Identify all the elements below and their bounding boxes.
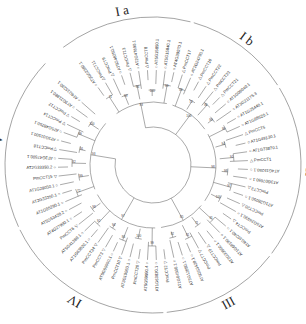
root-arc [115, 127, 191, 203]
leaf-branch [226, 135, 243, 141]
bootstrap-labels: 7199961009993837286991009994919897100989… [72, 84, 233, 245]
phylogenetic-tree-figure: ○ AT3G02380.1△ PmCCT11△ PmCCT9○ AT5G4825… [0, 0, 306, 324]
bootstrap-value: 100 [136, 234, 141, 238]
bootstrap-value: 91 [80, 147, 84, 151]
leaf-branch [194, 82, 199, 91]
leaf-branch [233, 176, 247, 178]
bootstrap-value: 86 [122, 235, 126, 239]
leaf-label: △ PmCCT1 [250, 157, 272, 163]
bootstrap-value: 97 [121, 214, 125, 218]
leaf-branch [178, 242, 182, 255]
bootstrap-value: 92 [97, 219, 101, 223]
leaf-labels: ○ AT3G02380.1△ PmCCT11△ PmCCT9○ AT5G4825… [26, 38, 279, 291]
bootstrap-value: 93 [140, 103, 144, 107]
leaf-branch [147, 242, 148, 260]
leaf-branch [106, 235, 113, 247]
bootstrap-value: 72 [77, 189, 81, 193]
leaf-label: AT3G10060.1 ○ [120, 258, 132, 288]
leaf-branch [139, 249, 141, 259]
leaf-branch [233, 152, 247, 154]
tree-svg: ○ AT3G02380.1△ PmCCT11△ PmCCT9○ AT5G4825… [0, 0, 306, 324]
leaf-branch [198, 86, 206, 98]
bootstrap-value: 100 [216, 195, 221, 199]
bootstrap-value: 81 [186, 233, 190, 237]
leaf-label: AT5G59990.4 ○ [143, 261, 150, 291]
leaf-branch [215, 217, 226, 226]
leaf-branch [178, 75, 182, 88]
bootstrap-value: 100 [90, 122, 95, 126]
leaf-branch [59, 150, 77, 153]
leaf-branch [227, 118, 236, 123]
leaf-branch [76, 109, 87, 117]
bootstrap-value: 94 [112, 223, 116, 227]
leaf-branch [187, 243, 191, 252]
clade-label-v: V [0, 133, 6, 145]
leaf-branch [113, 242, 117, 251]
leaf-branch [62, 190, 72, 193]
leaf-branch [79, 213, 93, 224]
leaf-branch [69, 203, 81, 210]
leaf-label: △ PmCCT5 [244, 124, 266, 136]
bootstrap-value: 71 [195, 221, 199, 225]
leaf-label: PmCCT26 ▽ [132, 259, 141, 284]
leaf-branch [71, 117, 80, 122]
leaf-branch [172, 72, 174, 82]
leaf-branch [65, 195, 82, 202]
clade-branch [90, 123, 106, 189]
leaf-branch [58, 158, 72, 159]
bootstrap-value: 99 [209, 118, 213, 122]
clade-label-iii: III [219, 294, 238, 313]
leaf-branch [91, 229, 98, 237]
leaf-label: △ PmCCT13 [121, 47, 132, 72]
clade-arc-ib [194, 23, 278, 85]
leaf-label: PmCCT3 △ [246, 185, 269, 195]
leaf-label: AT2G33350.2 ○ [26, 164, 56, 170]
bootstrap-value: 91 [209, 216, 213, 220]
bootstrap-value: 93 [92, 152, 96, 156]
bootstrap-value: 99 [124, 94, 128, 98]
leaf-branch [220, 203, 236, 212]
leaf-branch [170, 240, 174, 258]
leaf-label: AT3G07650.1 ○ [248, 176, 278, 185]
leaf-branch [147, 70, 148, 80]
leaf-branch [183, 78, 190, 95]
bootstrap-value: 100 [150, 89, 155, 93]
clade-label-ii: II [303, 168, 306, 177]
leaf-branch [113, 79, 121, 95]
leaf-label: ○ AT2G47890.1 [131, 39, 140, 69]
leaf-branch [82, 102, 96, 114]
bootstrap-value: 85 [180, 215, 184, 219]
leaf-label: AT1G63820.1 ○ [153, 261, 159, 291]
bootstrap-value: 99 [150, 241, 154, 245]
bootstrap-value: 71 [109, 95, 113, 99]
leaf-branch [64, 133, 77, 138]
leaf-branch [216, 111, 231, 121]
leaf-branch [122, 75, 125, 84]
bootstrap-value: 98 [92, 205, 96, 209]
leaf-branch [61, 141, 71, 144]
bootstrap-value: 99 [79, 174, 83, 178]
leaf-label: ○ AT1G73870.1 [249, 144, 279, 153]
bootstrap-value: 100 [186, 114, 191, 118]
bootstrap-value: 98 [224, 169, 228, 173]
clade-label-ib: I b [237, 28, 257, 48]
leaf-branch [59, 174, 77, 176]
clade-arc-iv [20, 230, 163, 313]
leaf-branch [198, 232, 206, 244]
clade-label-ia: I a [114, 2, 130, 19]
leaf-branch [106, 83, 113, 95]
bootstrap-value: 72 [189, 100, 193, 104]
leaf-label: PmCCT2 ▽ [162, 260, 170, 283]
bootstrap-value: 83 [179, 88, 183, 92]
leaf-branch [60, 182, 74, 185]
bootstrap-value: 92 [171, 232, 175, 236]
leaf-branch [227, 198, 240, 204]
leaf-branch [207, 220, 220, 233]
leaf-branch [215, 104, 226, 113]
leaf-label: AT4G15250.1 ○ [249, 167, 279, 173]
bootstrap-value: 86 [204, 103, 208, 107]
leaf-branch [98, 87, 104, 95]
leaf-label: ○ AT1G49130.1 [247, 133, 277, 145]
bootstrap-value: 99 [165, 84, 169, 88]
bootstrap-value: 97 [227, 184, 231, 188]
